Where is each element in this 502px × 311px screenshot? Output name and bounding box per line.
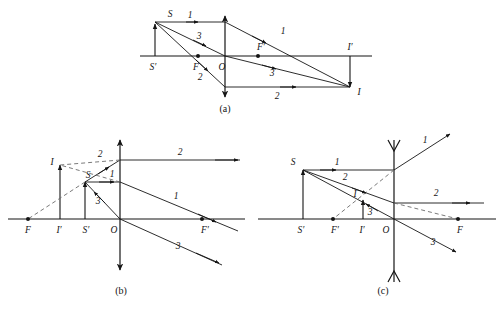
label-ray-2-refracted: 2 bbox=[275, 91, 280, 101]
label-ray-1-refracted: 1 bbox=[174, 191, 179, 201]
label-I-prime: I′ bbox=[358, 225, 365, 235]
ray-3-incident bbox=[155, 22, 225, 56]
label-F-prime: F′ bbox=[256, 42, 266, 52]
focal-point-F-prime-dot bbox=[331, 217, 335, 221]
label-ray-1-incident: 1 bbox=[188, 10, 193, 20]
ray-3-incident bbox=[303, 170, 394, 219]
label-ray-3-refracted: 3 bbox=[430, 237, 436, 247]
label-ray-3-incident: 3 bbox=[196, 31, 202, 41]
focal-point-F-dot bbox=[26, 217, 30, 221]
label-F: F bbox=[24, 225, 31, 235]
ray-3-virtual-extension bbox=[28, 182, 85, 219]
ray-2-dashed-continuation bbox=[394, 203, 458, 219]
focal-point-F-dot bbox=[196, 54, 200, 58]
label-S-prime: S′ bbox=[298, 225, 306, 235]
label-S: S bbox=[291, 157, 296, 167]
focal-point-F-prime-dot bbox=[256, 54, 260, 58]
panel-c: S S′ F′ I′ I O F 1 1 2 2 3 3 (c) bbox=[258, 134, 496, 297]
label-I-prime: I′ bbox=[346, 42, 353, 52]
label-ray-2-refracted: 2 bbox=[178, 147, 183, 157]
label-F-prime: F′ bbox=[330, 225, 340, 235]
label-I: I bbox=[352, 189, 357, 199]
label-ray-2-incident: 2 bbox=[343, 172, 348, 182]
label-S: S bbox=[168, 9, 173, 19]
label-S: S bbox=[86, 170, 91, 180]
label-I-prime: I′ bbox=[55, 225, 62, 235]
ray-2-incident bbox=[303, 170, 394, 203]
ray-3-refracted bbox=[225, 56, 350, 87]
label-S-prime: S′ bbox=[150, 62, 158, 72]
label-ray-3-refracted: 3 bbox=[175, 241, 181, 251]
ray-2-virtual-extension bbox=[60, 160, 120, 165]
caption-a: (a) bbox=[219, 103, 230, 115]
label-ray-2-incident: 2 bbox=[98, 149, 103, 159]
caption-c: (c) bbox=[377, 285, 388, 297]
label-ray-3-incident: 3 bbox=[95, 196, 101, 206]
label-O: O bbox=[219, 62, 226, 72]
panel-b: I S F I′ S′ O F′ 2 2 1 1 3 3 (b) bbox=[8, 140, 245, 297]
ray-1-refracted bbox=[225, 22, 350, 87]
label-ray-1-refracted: 1 bbox=[423, 135, 428, 145]
label-O: O bbox=[111, 225, 118, 235]
ray-2-incident-arrow bbox=[98, 167, 109, 174]
label-F-prime: F′ bbox=[200, 225, 210, 235]
label-S-prime: S′ bbox=[83, 225, 91, 235]
label-ray-3-incident: 3 bbox=[367, 207, 373, 217]
ray-3-refracted bbox=[394, 219, 456, 252]
label-F: F bbox=[456, 225, 463, 235]
label-ray-2-refracted: 2 bbox=[434, 188, 439, 198]
label-I: I bbox=[49, 157, 54, 167]
diagram-canvas: S S′ F O F′ I′ I 1 1 3 3 2 2 (a) bbox=[0, 0, 502, 311]
lens-ray-diagram-figure: S S′ F O F′ I′ I 1 1 3 3 2 2 (a) bbox=[0, 0, 502, 311]
focal-point-F-dot bbox=[456, 217, 460, 221]
panel-a: S S′ F O F′ I′ I 1 1 3 3 2 2 (a) bbox=[140, 9, 372, 115]
ray-2-incident bbox=[155, 22, 225, 87]
label-O: O bbox=[383, 225, 390, 235]
label-ray-3-refracted: 3 bbox=[269, 68, 275, 78]
label-ray-1-incident: 1 bbox=[110, 169, 115, 179]
label-ray-1-refracted: 1 bbox=[281, 26, 286, 36]
caption-b: (b) bbox=[115, 285, 127, 297]
label-ray-1-incident: 1 bbox=[335, 157, 340, 167]
ray-1-refracted bbox=[120, 182, 238, 231]
label-F: F bbox=[192, 62, 199, 72]
label-I: I bbox=[356, 87, 361, 97]
label-ray-2-incident: 2 bbox=[198, 72, 203, 82]
focal-point-F-prime-dot bbox=[200, 217, 204, 221]
ray-3-refracted-arrow bbox=[196, 253, 219, 263]
